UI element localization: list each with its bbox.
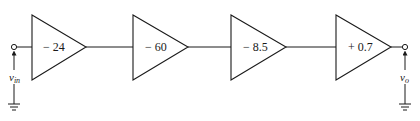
diagram-svg: vin − 24 − 60 − 8.5 + 0.7 vo bbox=[0, 0, 420, 121]
stage-1-gain: − 24 bbox=[43, 40, 65, 54]
amplifier-stage-3: − 8.5 bbox=[231, 15, 286, 80]
output-ground-icon bbox=[399, 104, 411, 110]
amplifier-stage-2: − 60 bbox=[133, 15, 188, 80]
input-terminal bbox=[11, 44, 32, 49]
input-label: vin bbox=[9, 71, 20, 85]
output-terminal bbox=[402, 44, 407, 49]
output-label: vo bbox=[400, 71, 409, 85]
stage-4-gain: + 0.7 bbox=[348, 40, 373, 54]
amplifier-stage-4: + 0.7 bbox=[336, 15, 391, 80]
stage-3-gain: − 8.5 bbox=[243, 40, 268, 54]
input-ground-icon bbox=[8, 104, 20, 110]
stage-2-gain: − 60 bbox=[145, 40, 167, 54]
amplifier-cascade-diagram: vin − 24 − 60 − 8.5 + 0.7 vo bbox=[0, 0, 420, 121]
amplifier-stage-1: − 24 bbox=[32, 15, 86, 80]
